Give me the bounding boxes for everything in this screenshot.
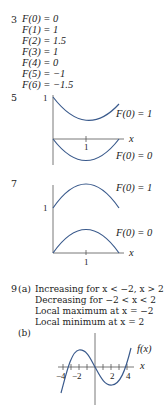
problem-9b-graph [0,0,167,418]
